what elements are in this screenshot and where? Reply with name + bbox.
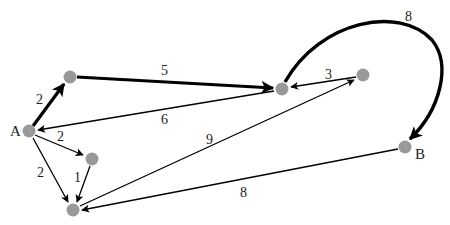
node-A [23,125,36,138]
weight-A-n4: 2 [57,129,64,144]
node-B [399,141,412,154]
weight-A-n1: 2 [36,92,43,107]
edge-n2-A [38,91,274,130]
node-n2 [276,83,289,96]
node-n4 [86,153,99,166]
node-n5 [67,204,80,217]
weight-n2-A: 6 [161,112,168,127]
edge-n5-n3 [80,80,354,206]
weight-n2-B: 8 [405,9,412,24]
weight-n3-n2: 3 [325,67,332,82]
weight-n5-n3: 9 [206,132,213,147]
node-n1 [64,71,77,84]
weight-B-n5: 8 [240,185,247,200]
weight-A-n5: 2 [37,165,44,180]
edge-n3-n2 [291,77,356,87]
node-n3 [357,69,370,82]
edge-n1-n2 [77,77,273,88]
graph-diagram: A B 2 5 6 3 8 2 2 1 9 8 [0,0,450,225]
node-label-B: B [415,146,425,162]
node-label-A: A [10,123,21,139]
edge-B-n5 [82,149,398,210]
weight-n4-n5: 1 [74,170,81,185]
weight-n1-n2: 5 [161,63,168,78]
edges [33,21,442,210]
